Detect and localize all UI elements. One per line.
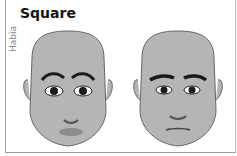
illustration-title: Square <box>20 5 76 21</box>
female-face-illustration <box>18 28 118 152</box>
male-face-illustration <box>128 28 228 152</box>
credit-label: Habia <box>8 26 18 52</box>
